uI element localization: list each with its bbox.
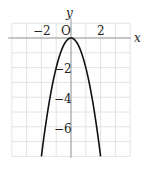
x-tick-label: −2	[33, 24, 51, 38]
y-axis-label: y	[65, 6, 73, 20]
origin-label: O	[61, 24, 71, 38]
parabola-chart: x y O −2 2 −2 −4 −6	[0, 0, 149, 169]
y-tick-label: −2	[54, 62, 72, 76]
x-axis-label: x	[134, 31, 141, 45]
y-tick-label: −4	[54, 92, 72, 106]
y-tick-label: −6	[54, 122, 72, 136]
x-tick-label: 2	[97, 24, 105, 38]
